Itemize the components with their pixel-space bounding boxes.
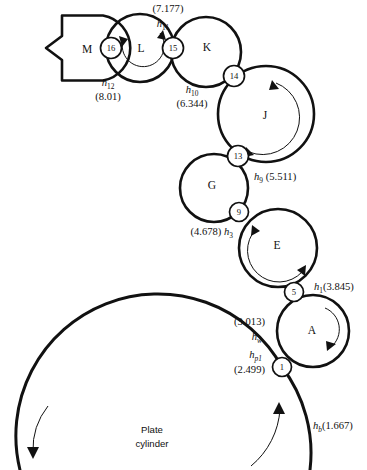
svg-text:(4.678) h3: (4.678) h3 xyxy=(190,226,233,240)
nip-node-13-label: 13 xyxy=(234,151,243,161)
nip-node-14-label: 14 xyxy=(230,71,239,81)
svg-text:hp1: hp1 xyxy=(249,349,262,363)
nip-node-1-label: 1 xyxy=(280,362,284,372)
roller-M-label: M xyxy=(82,43,92,55)
roller-E-label: E xyxy=(273,239,280,251)
roller-E: E xyxy=(239,209,317,287)
nip-node-5: 5 xyxy=(285,283,304,302)
rotation-arrow-plate-right xyxy=(251,402,285,466)
gap-label-hw: (3.013) hw xyxy=(234,316,265,345)
nip-node-15: 15 xyxy=(163,38,184,59)
gap-label-h11-value: (7.177) xyxy=(153,3,184,15)
nip-node-16: 16 xyxy=(101,38,122,59)
gap-label-h1-value: (3.845) xyxy=(323,281,354,293)
roller-A-label: A xyxy=(308,324,317,336)
diagram-canvas: M L K J G E xyxy=(0,0,367,470)
rotation-arrow-A xyxy=(325,308,339,351)
nip-node-1: 1 xyxy=(273,358,292,377)
gap-label-h3: (4.678) h3 xyxy=(190,226,233,240)
gap-label-hp1: hp1 (2.499) xyxy=(234,349,265,376)
gap-label-h9: h9 (5.511) xyxy=(254,171,297,185)
plate-cylinder-outline-right xyxy=(282,367,311,470)
roller-J-label: J xyxy=(263,109,268,121)
nip-node-5-label: 5 xyxy=(292,287,296,297)
gap-label-h12-value: (8.01) xyxy=(95,91,121,103)
gap-label-h10-value: (6.344) xyxy=(177,98,208,110)
gap-label-h9-value: (5.511) xyxy=(266,171,297,183)
roller-G-label: G xyxy=(208,179,216,191)
rotation-arrow-E xyxy=(248,225,306,282)
plate-caption-line1: Plate xyxy=(141,424,163,435)
roller-L-label: L xyxy=(137,42,144,54)
svg-text:h1(3.845): h1(3.845) xyxy=(314,281,354,295)
gap-label-hp1-value: (2.499) xyxy=(234,364,265,376)
roller-K-label: K xyxy=(203,41,212,53)
rotation-arrow-plate-left xyxy=(27,406,48,459)
gap-label-h10-subscript: 10 xyxy=(191,89,199,98)
gap-label-h3-value: (4.678) xyxy=(190,226,221,238)
gap-label-h3-subscript: 3 xyxy=(229,231,233,240)
plate-caption-line2: cylinder xyxy=(135,438,169,449)
gap-label-hp1-subscript: p1 xyxy=(254,354,262,363)
svg-text:hb(1.667): hb(1.667) xyxy=(313,420,353,434)
gap-label-h12-subscript: 12 xyxy=(107,82,115,91)
gap-labels: (7.177) h11 h12 (8.01) h10 (6.344) h9 (5… xyxy=(95,3,354,434)
nip-node-9-label: 9 xyxy=(237,207,241,217)
gap-label-hw-subscript: w xyxy=(257,336,262,345)
gap-label-h1: h1(3.845) xyxy=(314,281,354,295)
svg-text:h11: h11 xyxy=(157,18,170,32)
nip-node-9: 9 xyxy=(230,203,249,222)
nip-node-13: 13 xyxy=(228,146,249,167)
gap-label-h11-subscript: 11 xyxy=(162,23,169,32)
svg-text:h9 (5.511): h9 (5.511) xyxy=(254,171,297,185)
nip-node-15-label: 15 xyxy=(169,43,178,53)
rotation-arrow-J xyxy=(244,80,300,157)
plate-cylinder: Plate cylinder xyxy=(16,294,311,470)
roller-train-diagram: M L K J G E xyxy=(0,0,367,470)
nip-node-14: 14 xyxy=(224,66,245,87)
nip-node-16-label: 16 xyxy=(107,43,116,53)
roller-A: A xyxy=(277,295,349,367)
svg-text:hw: hw xyxy=(252,331,262,345)
gap-label-hb: hb(1.667) xyxy=(313,420,353,434)
gap-label-hb-value: (1.667) xyxy=(322,420,353,432)
gap-label-hw-value: (3.013) xyxy=(234,316,265,328)
